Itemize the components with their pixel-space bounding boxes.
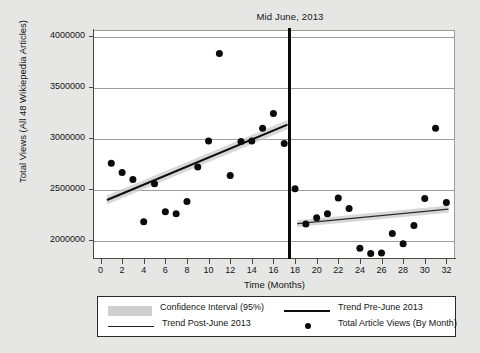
- x-tick-label-6: 6: [163, 265, 168, 275]
- x-axis-title: Time (Months): [94, 279, 455, 290]
- y-tick-mark-3000000: [89, 138, 94, 139]
- data-point: [162, 208, 169, 215]
- data-point: [129, 176, 136, 183]
- data-point: [432, 125, 439, 132]
- y-tick-label-3500000: 3500000: [50, 81, 85, 91]
- legend-key-confidence-band: [108, 306, 152, 316]
- mid-june-vertical-line: [288, 28, 290, 259]
- data-point: [302, 220, 309, 227]
- data-point: [356, 245, 363, 252]
- y-tick-mark-4000000: [89, 36, 94, 37]
- y-tick-mark-3500000: [89, 87, 94, 88]
- x-tick-label-26: 26: [376, 265, 386, 275]
- data-point: [227, 172, 234, 179]
- x-tick-mark-2: [122, 259, 123, 264]
- x-tick-mark-32: [446, 259, 447, 264]
- data-point: [108, 160, 115, 167]
- data-point: [346, 205, 353, 212]
- y-tick-label-2000000: 2000000: [50, 234, 85, 244]
- data-point: [292, 185, 299, 192]
- x-tick-mark-4: [144, 259, 145, 264]
- data-point: [270, 110, 277, 117]
- data-point: [443, 199, 450, 206]
- confidence-interval-bands: [107, 120, 449, 227]
- x-tick-label-8: 8: [184, 265, 189, 275]
- scatter-points: [108, 50, 450, 257]
- x-tick-mark-20: [317, 259, 318, 264]
- chart-figure: Mid June, 2013 Total Views (All 48 Wikie…: [0, 0, 480, 353]
- chart-legend: Confidence Interval (95%)Trend Pre-June …: [97, 296, 456, 337]
- x-tick-mark-18: [295, 259, 296, 264]
- x-tick-label-16: 16: [268, 265, 278, 275]
- x-tick-label-20: 20: [312, 265, 322, 275]
- x-tick-label-10: 10: [204, 265, 214, 275]
- y-tick-mark-2000000: [89, 240, 94, 241]
- data-point: [259, 125, 266, 132]
- x-tick-label-4: 4: [141, 265, 146, 275]
- data-point: [421, 195, 428, 202]
- x-tick-mark-16: [273, 259, 274, 264]
- x-tick-mark-30: [425, 259, 426, 264]
- x-tick-label-22: 22: [333, 265, 343, 275]
- x-tick-mark-14: [252, 259, 253, 264]
- x-tick-mark-10: [209, 259, 210, 264]
- data-point: [205, 137, 212, 144]
- legend-label: Trend Post-June 2013: [162, 318, 251, 328]
- x-tick-mark-12: [230, 259, 231, 264]
- data-point: [400, 240, 407, 247]
- legend-label: Confidence Interval (95%): [160, 302, 264, 312]
- data-point: [335, 194, 342, 201]
- x-tick-mark-26: [382, 259, 383, 264]
- data-point: [367, 250, 374, 257]
- x-tick-label-28: 28: [398, 265, 408, 275]
- x-tick-label-2: 2: [120, 265, 125, 275]
- data-point: [313, 214, 320, 221]
- data-layer: [94, 31, 455, 259]
- trend-line-pre-june: [107, 125, 288, 200]
- data-point: [140, 218, 147, 225]
- x-tick-label-32: 32: [441, 265, 451, 275]
- y-tick-label-2500000: 2500000: [50, 183, 85, 193]
- plot-area: [94, 30, 455, 258]
- mid-june-label: Mid June, 2013: [256, 11, 323, 22]
- y-tick-label-3000000: 3000000: [50, 132, 85, 142]
- legend-key-data-point: [305, 323, 311, 329]
- x-tick-label-0: 0: [98, 265, 103, 275]
- data-point: [389, 230, 396, 237]
- data-point: [281, 140, 288, 147]
- legend-label: Total Article Views (By Month): [338, 318, 457, 328]
- y-tick-label-4000000: 4000000: [50, 30, 85, 40]
- y-axis-title: Total Views (All 48 Wikiepedia Articles): [17, 2, 28, 202]
- legend-key-trend-post-june: [108, 326, 154, 327]
- x-tick-mark-0: [101, 259, 102, 264]
- x-tick-mark-28: [403, 259, 404, 264]
- x-tick-mark-24: [360, 259, 361, 264]
- x-tick-label-30: 30: [420, 265, 430, 275]
- data-point: [194, 163, 201, 170]
- legend-label: Trend Pre-June 2013: [338, 302, 423, 312]
- data-point: [183, 198, 190, 205]
- data-point: [324, 210, 331, 217]
- data-point: [248, 137, 255, 144]
- legend-key-trend-pre-june: [284, 310, 330, 312]
- x-tick-label-14: 14: [247, 265, 257, 275]
- data-point: [378, 249, 385, 256]
- data-point: [151, 180, 158, 187]
- x-tick-mark-8: [187, 259, 188, 264]
- data-point: [119, 169, 126, 176]
- data-point: [216, 50, 223, 57]
- x-tick-mark-6: [165, 259, 166, 264]
- x-tick-label-12: 12: [225, 265, 235, 275]
- data-point: [237, 138, 244, 145]
- x-tick-mark-22: [338, 259, 339, 264]
- x-tick-label-24: 24: [355, 265, 365, 275]
- x-tick-label-18: 18: [290, 265, 300, 275]
- trend-line-post-june: [297, 209, 448, 223]
- data-point: [173, 210, 180, 217]
- data-point: [410, 222, 417, 229]
- y-tick-mark-2500000: [89, 189, 94, 190]
